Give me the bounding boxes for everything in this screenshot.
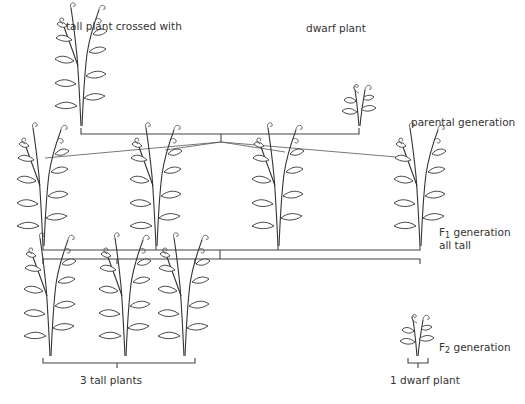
f2-tall-plant-2 xyxy=(99,233,151,356)
f2-tall-plant-1 xyxy=(24,233,76,356)
f1-plant-3 xyxy=(252,123,304,246)
f2-dwarf-plant xyxy=(400,314,434,356)
tall-count-bracket xyxy=(43,358,195,368)
f1-bracket xyxy=(43,246,420,259)
f2-bracket xyxy=(43,259,420,264)
f2-generation-label: F2 generation xyxy=(439,341,511,357)
f1-fan-lines xyxy=(45,142,408,158)
dwarf-count-label: 1 dwarf plant xyxy=(390,374,460,387)
tall-parent-label: tall plant crossed with xyxy=(66,20,182,33)
f2-suffix: generation xyxy=(450,341,510,353)
tall-count-label: 3 tall plants xyxy=(80,374,142,387)
f1-suffix: generation xyxy=(450,226,510,238)
parental-generation-label: parental generation xyxy=(411,116,515,129)
f1-plant-2 xyxy=(130,123,182,246)
f1-note-label: all tall xyxy=(439,239,471,252)
parent-dwarf-plant xyxy=(342,84,376,126)
parental-bracket xyxy=(81,128,359,142)
dwarf-parent-label: dwarf plant xyxy=(306,22,366,35)
dwarf-count-bracket xyxy=(408,358,428,368)
f2-tall-plant-3 xyxy=(158,233,210,356)
f1-plant-1 xyxy=(17,123,69,246)
